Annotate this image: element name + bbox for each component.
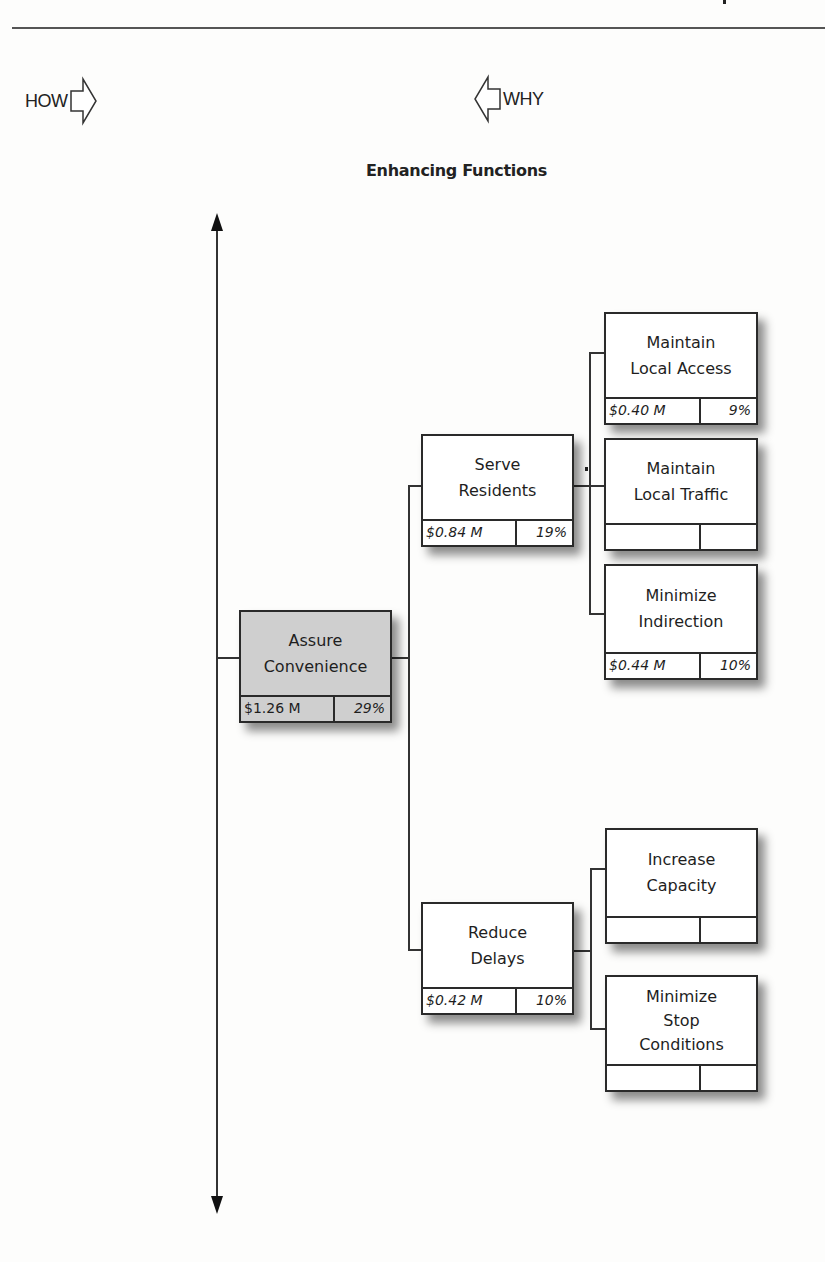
function-footer (607, 916, 756, 942)
function-box-reduce-delays[interactable]: Reduce Delays $0.42 M 10% (421, 902, 574, 1015)
function-percent: 9% (701, 399, 757, 423)
function-footer: $0.42 M 10% (423, 987, 572, 1013)
function-percent (701, 918, 756, 942)
function-cost (606, 525, 701, 549)
function-cost (607, 1066, 701, 1090)
function-percent (701, 1066, 756, 1090)
function-box-assure-convenience[interactable]: Assure Convenience $1.26 M 29% (239, 610, 392, 723)
function-box-minimize-stop-conditions[interactable]: Minimize Stop Conditions (605, 975, 758, 1092)
scope-axis-arrow (207, 213, 227, 1215)
function-cost: $0.44 M (606, 654, 701, 678)
connector-to-stop-conditions (590, 1028, 605, 1030)
section-title: Enhancing Functions (0, 161, 825, 180)
connector-reduce-out (573, 950, 591, 952)
why-label: WHY (503, 89, 544, 110)
function-footer: $0.44 M 10% (606, 652, 756, 678)
function-percent: 10% (701, 654, 757, 678)
function-footer: $0.84 M 19% (423, 519, 572, 545)
function-cost: $0.40 M (606, 399, 701, 423)
function-footer: $1.26 M 29% (241, 695, 390, 721)
function-label: Serve Residents (423, 436, 572, 519)
function-percent (701, 525, 757, 549)
function-percent: 10% (517, 989, 572, 1013)
function-cost: $0.84 M (423, 521, 517, 545)
header-rule (12, 27, 825, 29)
function-label: Minimize Stop Conditions (607, 977, 756, 1064)
connector-level2-vertical (408, 485, 410, 951)
function-cost (607, 918, 701, 942)
why-indicator: WHY (472, 74, 544, 124)
connector-axis-to-root (217, 657, 239, 659)
connector-to-reduce-delays (408, 949, 422, 951)
function-box-minimize-indirection[interactable]: Minimize Indirection $0.44 M 10% (604, 564, 758, 680)
connector-level3b-vertical (590, 868, 592, 1029)
function-label: Increase Capacity (607, 830, 756, 916)
connector-to-local-access (589, 352, 605, 354)
function-percent: 29% (335, 697, 390, 721)
function-box-maintain-local-traffic[interactable]: Maintain Local Traffic (604, 438, 758, 551)
connector-to-capacity (590, 868, 605, 870)
function-footer (606, 523, 756, 549)
function-label: Assure Convenience (241, 612, 390, 695)
hollow-arrow-right-icon (69, 76, 99, 126)
function-box-maintain-local-access[interactable]: Maintain Local Access $0.40 M 9% (604, 312, 758, 425)
function-cost: $1.26 M (241, 697, 335, 721)
function-label: Maintain Local Traffic (606, 440, 756, 523)
function-label: Reduce Delays (423, 904, 572, 987)
hollow-arrow-left-icon (472, 74, 502, 124)
page-mark (723, 0, 726, 4)
connector-to-indirection (589, 613, 605, 615)
function-percent: 19% (517, 521, 572, 545)
function-cost: $0.42 M (423, 989, 517, 1013)
function-label: Minimize Indirection (606, 566, 756, 652)
function-box-serve-residents[interactable]: Serve Residents $0.84 M 19% (421, 434, 574, 547)
stray-mark (585, 467, 588, 471)
function-footer: $0.40 M 9% (606, 397, 756, 423)
connector-to-serve-residents (408, 485, 422, 487)
function-label: Maintain Local Access (606, 314, 756, 397)
function-footer (607, 1064, 756, 1090)
how-label: HOW (25, 91, 68, 112)
connector-level3a-vertical (589, 352, 591, 615)
function-box-increase-capacity[interactable]: Increase Capacity (605, 828, 758, 944)
how-indicator: HOW (25, 76, 99, 126)
